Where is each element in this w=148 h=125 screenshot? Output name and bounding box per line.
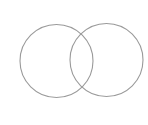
venn-diagram-canvas (0, 0, 148, 125)
venn-circle-right (70, 24, 143, 97)
venn-diagram (0, 0, 148, 125)
